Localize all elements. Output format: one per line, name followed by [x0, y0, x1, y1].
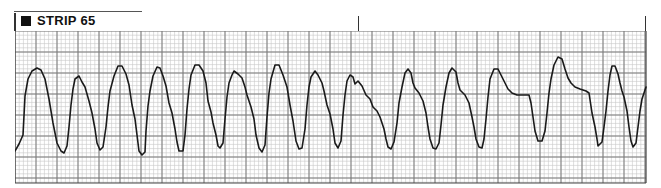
- ecg-grid: [15, 31, 647, 184]
- major-grid: [15, 31, 646, 183]
- label-bar: [14, 13, 16, 31]
- square-bullet-icon: [21, 16, 31, 26]
- time-marker: [645, 16, 646, 31]
- top-rule: [14, 11, 142, 12]
- strip-title: STRIP 65: [37, 13, 96, 28]
- time-marker: [358, 16, 359, 31]
- ecg-strip: [15, 31, 647, 184]
- strip-label: STRIP 65: [21, 13, 96, 28]
